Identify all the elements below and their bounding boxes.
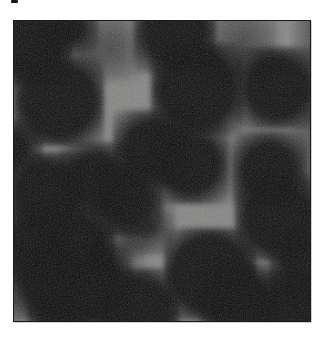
cell-blob	[92, 220, 146, 274]
cell-blob	[206, 21, 278, 79]
page	[0, 0, 328, 340]
micrograph-frame	[13, 20, 311, 322]
cell-blob	[269, 231, 310, 301]
cell-blob	[27, 281, 95, 321]
cell-blob	[76, 21, 142, 81]
micrograph-image	[14, 21, 310, 321]
crop-mark	[11, 0, 18, 3]
